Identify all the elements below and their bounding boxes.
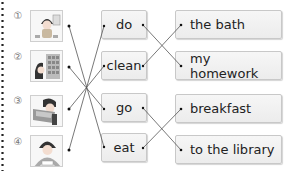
row-number-2: ② <box>12 51 24 63</box>
phrase-box-my-homework[interactable]: my homework <box>175 51 282 80</box>
verb-box-eat[interactable]: eat <box>101 133 147 162</box>
row-number-3: ③ <box>12 95 24 107</box>
dot-pic3 <box>68 108 71 111</box>
person-eating-breakfast-icon <box>30 135 63 167</box>
phrase-label: breakfast <box>190 101 251 116</box>
dot-pic4 <box>68 149 71 152</box>
dot-pic2 <box>68 66 71 69</box>
phrase-label: to the library <box>190 142 274 157</box>
verb-box-clean[interactable]: clean <box>101 51 147 80</box>
verb-label: go <box>116 100 132 115</box>
person-doing-homework-icon <box>30 95 63 127</box>
phrase-box-breakfast[interactable]: breakfast <box>175 94 282 123</box>
dot-pic1 <box>68 25 71 28</box>
phrase-box-the-bath[interactable]: the bath <box>175 10 282 39</box>
row-number-4: ④ <box>12 136 24 148</box>
phrase-label: the bath <box>190 17 245 32</box>
line-pic1-eat <box>69 26 104 147</box>
row-number-1: ① <box>12 10 24 22</box>
person-at-library-icon <box>30 50 63 82</box>
dotted-left-border <box>1 0 4 171</box>
verb-box-do[interactable]: do <box>101 10 147 39</box>
verb-label: clean <box>107 58 142 73</box>
line-pic3-clean <box>69 66 104 109</box>
person-bathing-icon <box>30 10 63 42</box>
verb-label: eat <box>113 140 134 155</box>
line-pic2-go <box>69 67 104 109</box>
verb-label: do <box>116 17 132 32</box>
phrase-label: my homework <box>190 51 281 81</box>
line-pic4-do <box>69 26 104 150</box>
phrase-box-to-the-library[interactable]: to the library <box>175 135 282 164</box>
verb-box-go[interactable]: go <box>101 93 147 122</box>
